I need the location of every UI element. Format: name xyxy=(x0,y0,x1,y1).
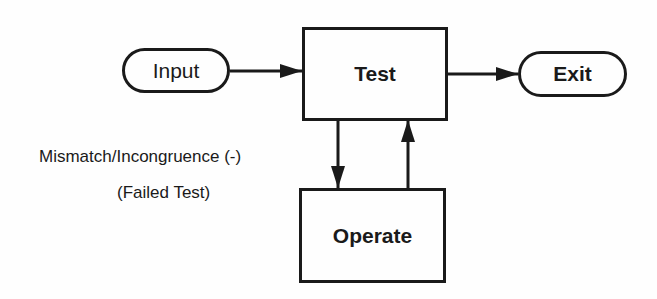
exit-label: Exit xyxy=(553,62,592,86)
exit-node: Exit xyxy=(518,51,627,97)
test-label: Test xyxy=(354,62,396,86)
test-node: Test xyxy=(302,27,448,121)
failed-test-annotation: (Failed Test) xyxy=(117,183,210,203)
input-node: Input xyxy=(122,48,230,93)
operate-node: Operate xyxy=(299,188,446,283)
tote-diagram: Input Test Exit Operate Mismatch/Incongr… xyxy=(0,0,657,299)
operate-label: Operate xyxy=(333,224,412,248)
mismatch-annotation: Mismatch/Incongruence (-) xyxy=(39,147,241,167)
input-label: Input xyxy=(153,59,200,83)
